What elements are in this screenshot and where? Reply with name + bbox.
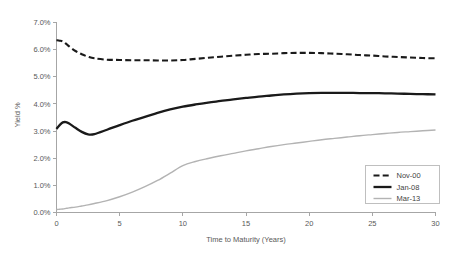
series-line-jan-08	[57, 93, 436, 135]
x-tick-label: 25	[368, 219, 376, 228]
y-tick-label: 7.0%	[33, 18, 50, 27]
x-axis-title: Time to Maturity (Years)	[206, 235, 286, 244]
y-tick-label: 0.0%	[33, 208, 50, 217]
x-tick-label: 30	[431, 219, 439, 228]
chart-canvas: 0.0%1.0%2.0%3.0%4.0%5.0%6.0%7.0% 0510152…	[0, 0, 463, 260]
y-tick-label: 5.0%	[33, 72, 50, 81]
legend-label-jan-08[interactable]: Jan-08	[397, 183, 420, 192]
y-tick-label: 4.0%	[33, 100, 50, 109]
x-tick-label: 0	[54, 219, 58, 228]
x-tick-label: 10	[179, 219, 187, 228]
y-axis-title: Yield %	[13, 102, 22, 127]
chart-legend[interactable]: Nov-00Jan-08Mar-13	[366, 166, 440, 204]
x-tick-label: 15	[242, 219, 250, 228]
legend-label-nov-00[interactable]: Nov-00	[397, 171, 421, 180]
legend-label-mar-13[interactable]: Mar-13	[397, 194, 421, 203]
x-axis-ticks: 051015202530	[54, 213, 439, 228]
y-tick-label: 2.0%	[33, 154, 50, 163]
y-axis-ticks: 0.0%1.0%2.0%3.0%4.0%5.0%6.0%7.0%	[33, 18, 56, 217]
x-tick-label: 20	[305, 219, 313, 228]
yield-curve-chart: 0.0%1.0%2.0%3.0%4.0%5.0%6.0%7.0% 0510152…	[0, 0, 463, 260]
y-tick-label: 1.0%	[33, 181, 50, 190]
x-tick-label: 5	[118, 219, 122, 228]
y-tick-label: 6.0%	[33, 45, 50, 54]
y-tick-label: 3.0%	[33, 127, 50, 136]
series-line-nov-00	[57, 40, 436, 60]
